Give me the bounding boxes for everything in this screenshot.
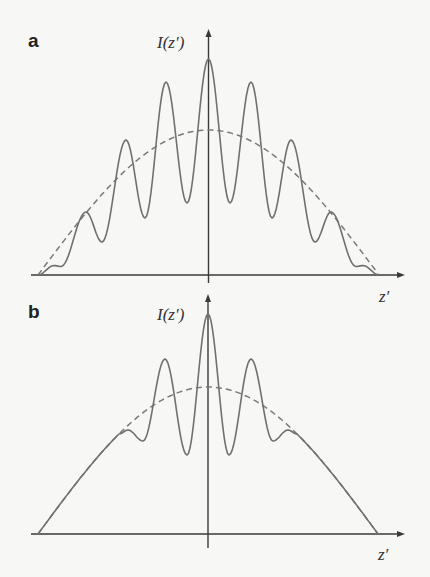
figure: a I(z′) z′ b I(z′) z′ (0, 0, 430, 577)
y-axis-label-b: I(z′) (156, 305, 185, 324)
panel-a: a I(z′) z′ (28, 29, 405, 306)
x-axis-label-a: z′ (378, 287, 390, 306)
y-axis-arrow-icon-b (205, 294, 211, 302)
panel-letter-a: a (28, 30, 39, 51)
panel-b: b I(z′) z′ (28, 294, 405, 564)
y-axis-arrow-icon-a (206, 29, 212, 37)
x-axis-arrow-icon-b (397, 531, 405, 537)
y-axis-label-a: I(z′) (156, 33, 185, 52)
x-axis-arrow-icon-a (397, 272, 405, 278)
x-axis-label-b: z′ (377, 545, 389, 564)
figure-canvas: a I(z′) z′ b I(z′) z′ (0, 0, 430, 577)
panel-letter-b: b (28, 301, 40, 322)
